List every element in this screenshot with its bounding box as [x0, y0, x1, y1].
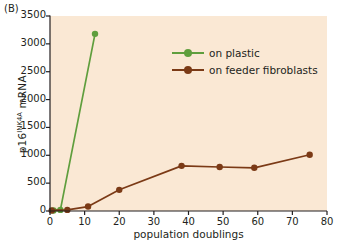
y-axis-label-superscript: INK4A	[16, 112, 24, 133]
y-axis-label: p16INK4A mRNA	[16, 54, 29, 174]
legend-marker-circle-icon	[184, 66, 192, 74]
legend-label: on plastic	[209, 47, 260, 59]
x-axis-label: population doublings	[50, 228, 327, 240]
legend-swatch	[172, 48, 204, 58]
legend: on plasticon feeder fibroblasts	[172, 45, 318, 79]
y-axis-label-tail: mRNA	[16, 75, 28, 112]
legend-item[interactable]: on feeder fibroblasts	[172, 62, 318, 77]
legend-label: on feeder fibroblasts	[209, 64, 318, 76]
legend-swatch	[172, 65, 204, 75]
legend-item[interactable]: on plastic	[172, 45, 318, 60]
legend-marker-circle-icon	[184, 49, 192, 57]
x-tick-label: 80	[307, 216, 338, 227]
y-axis-label-main: p16	[16, 133, 28, 154]
